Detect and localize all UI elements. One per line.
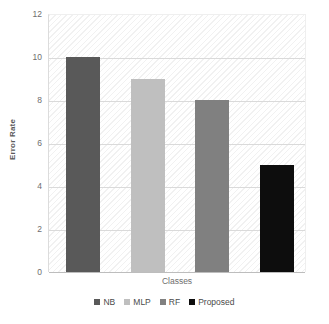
y-axis-tick-label: 0: [37, 267, 42, 277]
chart-legend: NBMLPRFProposed: [0, 297, 329, 307]
bar-proposed: [260, 165, 294, 273]
legend-swatch-icon: [94, 299, 100, 305]
y-axis-tick-label: 4: [37, 181, 42, 191]
bar-mlp: [131, 79, 165, 273]
y-axis-tick-labels: 024681012: [22, 14, 46, 272]
y-axis-tick-label: 2: [37, 224, 42, 234]
legend-item-label: RF: [169, 297, 180, 307]
legend-item-label: Proposed: [198, 297, 234, 307]
legend-swatch-icon: [160, 299, 166, 305]
y-axis-tick-label: 10: [33, 52, 42, 62]
legend-item-nb[interactable]: NB: [94, 297, 115, 307]
x-axis-baseline: [49, 272, 305, 273]
y-axis-tick-label: 6: [37, 138, 42, 148]
y-axis-title-text: Error Rate: [9, 118, 18, 159]
legend-item-proposed[interactable]: Proposed: [189, 297, 234, 307]
bar-rf: [195, 100, 229, 272]
x-axis-title-text: Classes: [162, 276, 192, 286]
y-axis-tick-label: 8: [37, 95, 42, 105]
y-axis-title: Error Rate: [2, 0, 24, 278]
legend-item-rf[interactable]: RF: [160, 297, 180, 307]
legend-item-mlp[interactable]: MLP: [124, 297, 150, 307]
x-axis-title: Classes: [48, 276, 306, 286]
legend-item-label: NB: [103, 297, 115, 307]
legend-swatch-icon: [124, 299, 130, 305]
bar-chart-figure: Error Rate 024681012 Classes NBMLPRFProp…: [0, 0, 329, 324]
bars-layer: [49, 15, 305, 272]
plot-area: [48, 14, 306, 272]
bar-nb: [66, 57, 100, 272]
legend-swatch-icon: [189, 299, 195, 305]
y-axis-tick-label: 12: [33, 9, 42, 19]
legend-item-label: MLP: [133, 297, 150, 307]
